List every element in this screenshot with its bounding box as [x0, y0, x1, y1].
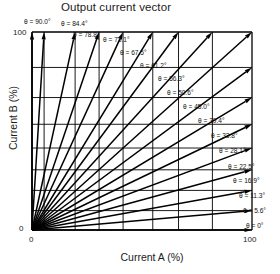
- x-axis-min-label: 0: [29, 235, 33, 244]
- y-axis-min-label: 0: [19, 224, 23, 233]
- angle-label: θ = 45.0°: [183, 104, 210, 111]
- vector-plot: [0, 0, 280, 274]
- angle-label: θ = 84.4°: [61, 21, 88, 28]
- angle-label: θ = 73.1°: [103, 37, 130, 44]
- angle-label: θ = 61.2°: [140, 63, 167, 70]
- angle-label: θ = 50.6°: [167, 90, 194, 97]
- output-current-vector-figure: Output current vector 100 0 0 100 Curren…: [0, 0, 280, 274]
- vector-arrow: [32, 32, 123, 230]
- vector-arrow: [32, 148, 252, 230]
- angle-label: θ = 67.5°: [120, 50, 147, 57]
- x-axis-max-label: 100: [243, 235, 256, 244]
- y-axis-max-label: 100: [13, 28, 26, 37]
- angle-label: θ = 90.0°: [24, 19, 51, 26]
- angle-label: θ = 78.8°: [73, 32, 100, 39]
- angle-label: θ = 0°: [246, 223, 264, 230]
- angle-label: θ = 5.6°: [243, 208, 266, 215]
- y-axis-title: Current B (%): [7, 63, 19, 173]
- angle-label: θ = 28.1°: [219, 148, 246, 155]
- vector-arrow: [32, 32, 212, 230]
- vector-arrow: [32, 209, 252, 230]
- angle-label: θ = 22.5°: [228, 164, 255, 171]
- x-axis-title: Current A (%): [0, 251, 280, 263]
- angle-label: θ = 33.8°: [211, 133, 238, 140]
- angle-label: θ = 16.9°: [233, 178, 260, 185]
- angle-label: θ = 11.3°: [239, 193, 265, 200]
- angle-label: θ = 56.3°: [158, 76, 185, 83]
- angle-label: θ = 39.4°: [198, 118, 225, 125]
